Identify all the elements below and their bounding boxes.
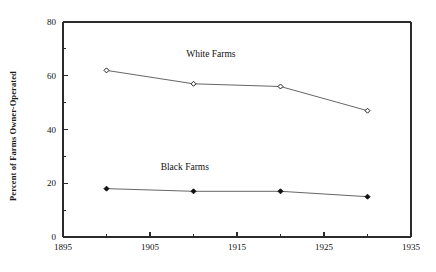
- x-tick-label: 1935: [402, 242, 421, 252]
- data-point-marker: [104, 186, 109, 191]
- series-label-1: Black Farms: [161, 162, 210, 172]
- y-tick-label: 80: [47, 17, 57, 27]
- series-line-0: [107, 70, 368, 110]
- y-tick-label: 40: [47, 125, 57, 135]
- series-line-1: [107, 189, 368, 197]
- y-tick-label: 20: [47, 178, 57, 188]
- x-tick-label: 1915: [228, 242, 247, 252]
- data-point-marker: [278, 84, 283, 89]
- series-label-0: White Farms: [186, 49, 236, 59]
- data-point-marker: [365, 108, 370, 113]
- data-point-marker: [191, 189, 196, 194]
- data-point-marker: [104, 68, 109, 73]
- data-point-marker: [278, 189, 283, 194]
- x-tick-label: 1905: [141, 242, 160, 252]
- x-tick-label: 1925: [315, 242, 334, 252]
- x-tick-label: 1895: [54, 242, 73, 252]
- y-tick-label: 60: [47, 71, 57, 81]
- data-point-marker: [191, 81, 196, 86]
- y-tick-label: 0: [52, 232, 57, 242]
- data-point-marker: [365, 194, 370, 199]
- line-chart-plot: 02040608018951905191519251935White Farms…: [0, 0, 436, 272]
- chart-container: Percent of Farms Owner-Operated 02040608…: [0, 0, 436, 272]
